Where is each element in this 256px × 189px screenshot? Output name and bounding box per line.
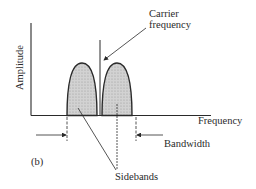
carrier-label-line2: frequency <box>149 19 191 30</box>
bandwidth-label: Bandwidth <box>164 138 210 149</box>
x-axis-label: Frequency <box>198 115 242 126</box>
bandwidth-diagram: Carrier frequency Amplitude Frequency Ba… <box>0 0 256 189</box>
panel-label: (b) <box>31 156 43 167</box>
carrier-pointer-arrow <box>104 28 146 60</box>
carrier-label-line1: Carrier <box>149 8 191 19</box>
sideband-pointer-left <box>78 108 116 170</box>
lower-sideband-lobe <box>67 63 97 116</box>
sidebands-label: Sidebands <box>115 171 158 182</box>
carrier-frequency-label: Carrier frequency <box>149 8 191 30</box>
y-axis-label: Amplitude <box>14 43 25 93</box>
